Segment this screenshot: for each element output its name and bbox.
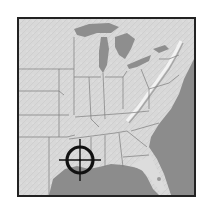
lake-okeechobee <box>157 177 161 181</box>
map-frame[interactable] <box>17 17 196 197</box>
relief-map[interactable] <box>19 19 194 195</box>
target-center-dot <box>79 159 81 161</box>
